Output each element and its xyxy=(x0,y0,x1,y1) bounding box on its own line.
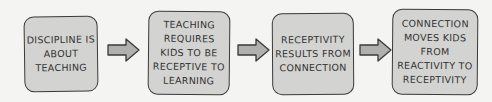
step-label: Teaching requires kids to be receptive t… xyxy=(153,18,226,89)
right-arrow-icon xyxy=(236,37,272,63)
step-box-teaching: Teaching requires kids to be receptive t… xyxy=(148,11,231,96)
right-arrow-icon xyxy=(358,37,394,63)
step-box-connection: Connection moves kids from reactivity to… xyxy=(392,9,479,96)
step-label: Receptivity results from connection xyxy=(275,33,351,76)
step-box-discipline: Discipline is about teaching xyxy=(23,15,98,92)
step-box-receptivity: Receptivity results from connection xyxy=(272,13,355,96)
step-label: Discipline is about teaching xyxy=(27,33,96,76)
right-arrow-icon xyxy=(106,37,142,63)
step-label: Connection moves kids from reactivity to… xyxy=(393,17,478,88)
